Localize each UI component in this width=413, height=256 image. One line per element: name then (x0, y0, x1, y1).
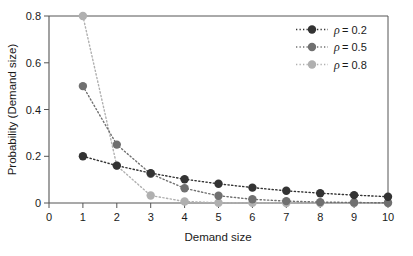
data-point (350, 198, 358, 206)
x-tick-label-1: 1 (80, 211, 86, 223)
data-point (350, 191, 358, 199)
x-tick-label-6: 6 (249, 211, 255, 223)
legend-label-rho-0.2: = 0.2 (342, 24, 367, 36)
data-point (316, 198, 324, 206)
data-point (214, 180, 222, 188)
x-tick-label-8: 8 (317, 211, 323, 223)
probability-line-chart: 0 1 2 3 4 5 6 7 8 9 10 0 0.2 0.4 0.6 0.8 (0, 0, 413, 256)
data-point (147, 169, 155, 177)
data-point (113, 161, 121, 169)
data-point (248, 183, 256, 191)
data-point (282, 187, 290, 195)
y-tick-label-0.6: 0.6 (26, 57, 41, 69)
data-point (79, 152, 87, 160)
legend-marker-icon (308, 60, 316, 68)
x-tick-label-3: 3 (148, 211, 154, 223)
x-tick-label-0: 0 (46, 211, 52, 223)
legend-label-rho-0.8: = 0.8 (342, 59, 367, 71)
data-point (147, 191, 155, 199)
data-point (79, 82, 87, 90)
legend-marker-icon (308, 25, 316, 33)
y-tick-label-0.8: 0.8 (26, 10, 41, 22)
chart-figure: 0 1 2 3 4 5 6 7 8 9 10 0 0.2 0.4 0.6 0.8 (0, 0, 413, 256)
y-tick-label-0.4: 0.4 (26, 104, 41, 116)
data-point (180, 175, 188, 183)
x-tick-label-9: 9 (351, 211, 357, 223)
data-point (113, 140, 121, 148)
data-point (248, 195, 256, 203)
x-axis-title: Demand size (184, 231, 251, 243)
legend-label-rho-symbol: ρ (333, 23, 340, 37)
x-tick-label-4: 4 (182, 211, 188, 223)
data-point (180, 184, 188, 192)
legend-label-rho-symbol: ρ (333, 58, 340, 72)
data-point (316, 189, 324, 197)
x-tick-label-10: 10 (382, 211, 394, 223)
data-point (282, 197, 290, 205)
y-axis-title: Probability (Demand size) (6, 44, 18, 176)
data-point (180, 197, 188, 205)
data-point (384, 193, 392, 201)
x-tick-label-7: 7 (283, 211, 289, 223)
data-point (214, 192, 222, 200)
x-tick-label-5: 5 (215, 211, 221, 223)
data-point (79, 12, 87, 20)
x-tick-label-2: 2 (114, 211, 120, 223)
legend-label-rho-symbol: ρ (333, 40, 340, 54)
y-tick-label-0: 0 (35, 197, 41, 209)
legend-marker-icon (308, 43, 316, 51)
y-tick-label-0.2: 0.2 (26, 150, 41, 162)
legend-label-rho-0.5: = 0.5 (342, 41, 367, 53)
